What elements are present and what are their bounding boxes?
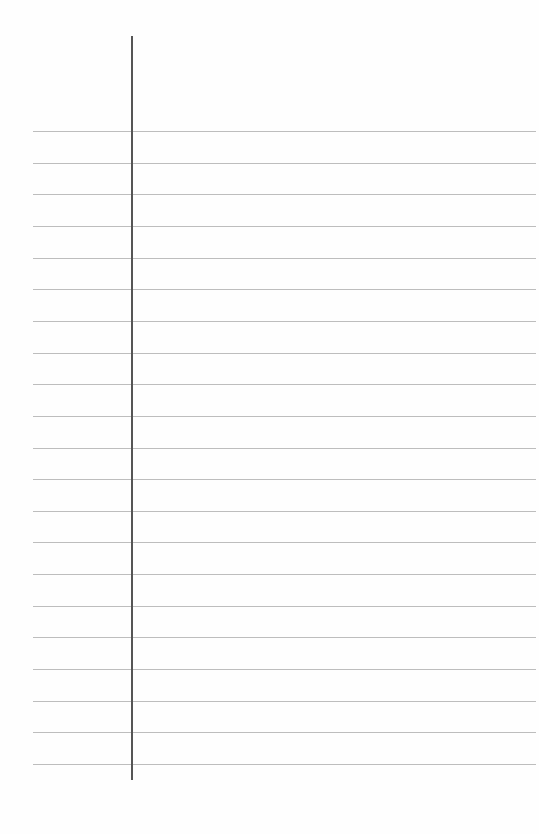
ruled-line bbox=[33, 321, 536, 322]
ruled-line bbox=[33, 131, 536, 132]
ruled-line bbox=[33, 416, 536, 417]
ruled-line bbox=[33, 764, 536, 765]
margin-line bbox=[131, 36, 133, 780]
ruled-line bbox=[33, 479, 536, 480]
ruled-line bbox=[33, 163, 536, 164]
lined-paper-sheet bbox=[0, 0, 539, 834]
ruled-line bbox=[33, 511, 536, 512]
ruled-line bbox=[33, 669, 536, 670]
ruled-line bbox=[33, 353, 536, 354]
ruled-line bbox=[33, 606, 536, 607]
ruled-line bbox=[33, 226, 536, 227]
ruled-line bbox=[33, 637, 536, 638]
ruled-line bbox=[33, 574, 536, 575]
ruled-line bbox=[33, 289, 536, 290]
ruled-line bbox=[33, 258, 536, 259]
ruled-line bbox=[33, 542, 536, 543]
ruled-line bbox=[33, 732, 536, 733]
ruled-line bbox=[33, 384, 536, 385]
ruled-line bbox=[33, 448, 536, 449]
ruled-line bbox=[33, 701, 536, 702]
ruled-line bbox=[33, 194, 536, 195]
